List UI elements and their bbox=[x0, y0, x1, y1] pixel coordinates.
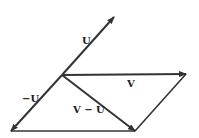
label-V: V bbox=[126, 78, 135, 89]
label-neg-U: −U bbox=[22, 93, 39, 104]
label-V-minus-U: V − U bbox=[72, 104, 105, 115]
vector-U bbox=[62, 17, 114, 75]
right-edge bbox=[135, 74, 186, 131]
label-U: U bbox=[82, 35, 91, 46]
vector-V bbox=[62, 74, 186, 75]
vector-V-minus-U bbox=[62, 75, 135, 131]
vector-diagram: UV−UV − U bbox=[0, 0, 199, 138]
